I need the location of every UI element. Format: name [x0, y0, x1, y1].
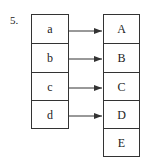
mapping-arrows: [0, 0, 146, 162]
